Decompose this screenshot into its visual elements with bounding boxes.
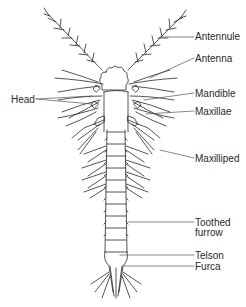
label-antenna: Antenna: [195, 53, 232, 64]
antennule-left: [44, 8, 102, 70]
anatomy-diagram: Antennule Antenna Mandible Maxillae Maxi…: [0, 0, 246, 307]
antennule-right: [128, 10, 186, 70]
swimming-legs: [82, 146, 150, 198]
leader-lines: [36, 37, 194, 266]
body-segments: [104, 130, 128, 252]
label-telson: Telson: [195, 250, 224, 261]
label-head: Head: [11, 94, 35, 105]
telson-furca: [91, 252, 141, 298]
label-toothed-furrow-2: furrow: [195, 227, 223, 238]
label-maxillae: Maxillae: [195, 106, 232, 117]
cephalic-appendages-right: [129, 70, 177, 126]
label-furca: Furca: [195, 261, 221, 272]
label-mandible: Mandible: [195, 88, 236, 99]
label-antennule: Antennule: [195, 31, 240, 42]
label-maxilliped: Maxilliped: [195, 153, 239, 164]
cephalic-appendages-left: [55, 70, 103, 126]
